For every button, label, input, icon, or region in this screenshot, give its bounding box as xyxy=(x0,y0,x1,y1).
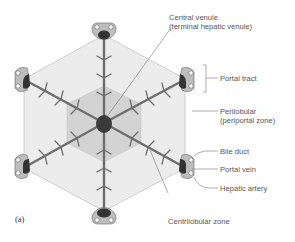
portal-tract-top-right xyxy=(179,68,194,92)
portal-tract-bottom-right xyxy=(179,155,194,179)
central-venule-text: Central venule xyxy=(169,13,252,22)
label-centrilobular-zone: Centrilobular zone xyxy=(168,217,230,226)
label-bile-duct: Bile duct xyxy=(220,147,249,156)
label-perilobular: Perilobular (periportal zone) xyxy=(220,107,275,125)
portal-tract-top xyxy=(92,23,116,40)
perilobular-text: Perilobular xyxy=(220,107,275,116)
central-venule xyxy=(96,115,112,133)
perilobular-subtext: (periportal zone) xyxy=(220,116,275,125)
label-portal-tract: Portal tract xyxy=(220,74,257,83)
label-central-venule: Central venule (terminal hepatic venule) xyxy=(169,13,252,31)
label-hepatic-artery: Hepatic artery xyxy=(220,184,267,193)
portal-tract-bottom-left xyxy=(15,155,30,179)
label-portal-vein: Portal vein xyxy=(220,165,256,174)
portal-tract-bottom xyxy=(92,208,116,224)
portal-tract-top-left xyxy=(15,68,30,92)
central-venule-subtext: (terminal hepatic venule) xyxy=(169,22,252,31)
panel-label: (a) xyxy=(15,214,24,224)
